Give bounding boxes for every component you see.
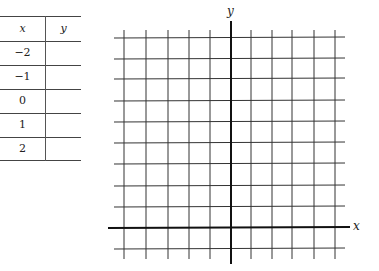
x-axis xyxy=(108,227,350,228)
y-axis-label: y xyxy=(227,4,234,18)
grid-vertical-lines xyxy=(124,30,335,259)
x-axis-label: x xyxy=(353,219,360,233)
coordinate-grid xyxy=(0,0,379,271)
grid-horizontal-lines xyxy=(114,37,345,249)
